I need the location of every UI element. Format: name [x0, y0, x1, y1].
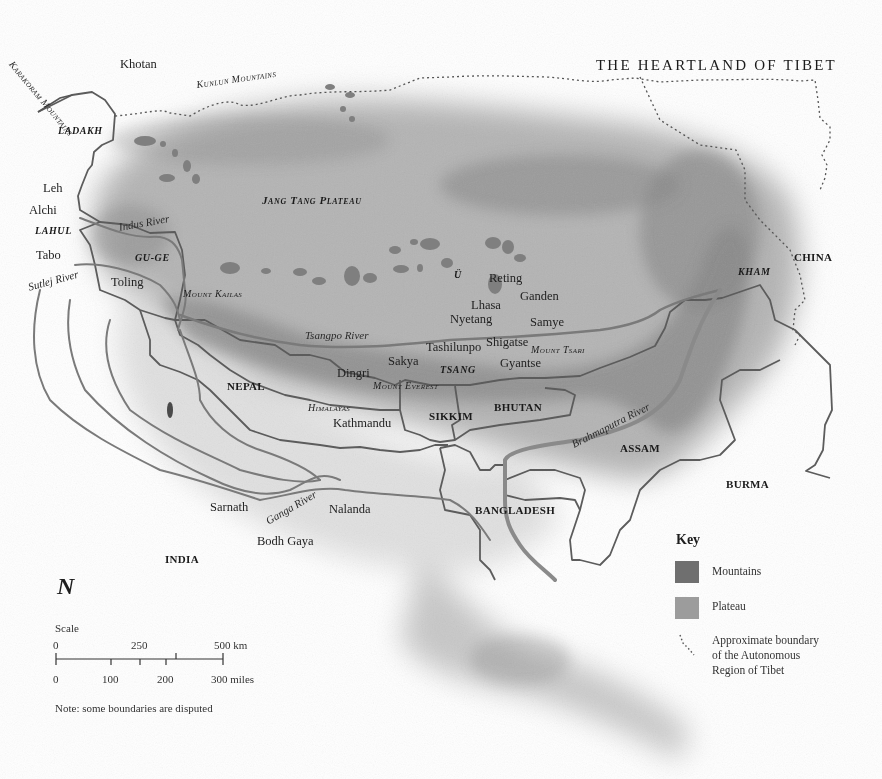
- label-india: INDIA: [165, 554, 199, 565]
- label-tsang: TSANG: [440, 365, 476, 375]
- label-leh: Leh: [43, 182, 62, 195]
- scale-km-0: 0: [53, 639, 59, 651]
- key-title: Key: [676, 532, 700, 548]
- plateau-swatch-icon: [675, 597, 699, 619]
- label-shigatse: Shigatse: [486, 336, 528, 349]
- map-title: THE HEARTLAND OF TIBET: [596, 57, 837, 74]
- label-nalanda: Nalanda: [329, 503, 371, 516]
- label-jang-tang-plateau: Jang Tang Plateau: [262, 195, 362, 206]
- scale-km-250: 250: [131, 639, 148, 651]
- label-sakya: Sakya: [388, 355, 419, 368]
- label-nyetang: Nyetang: [450, 313, 492, 326]
- label-sarnath: Sarnath: [210, 501, 248, 514]
- label-tabo: Tabo: [36, 249, 61, 262]
- label-mount-tsari: Mount Tsari: [531, 345, 585, 355]
- scale-km-500: 500 km: [214, 639, 247, 651]
- label-khotan: Khotan: [120, 58, 157, 71]
- key-label-boundary-line1: Approximate boundary: [712, 633, 819, 648]
- key-label-boundary-line2: of the Autonomous: [712, 648, 800, 663]
- key-label-boundary-line3: Region of Tibet: [712, 663, 784, 678]
- label-samye: Samye: [530, 316, 564, 329]
- label-lhasa: Lhasa: [471, 299, 501, 312]
- label-reting: Reting: [489, 272, 522, 285]
- disputed-boundaries-note: Note: some boundaries are disputed: [55, 702, 213, 714]
- label-toling: Toling: [111, 276, 143, 289]
- label-ladakh: LADAKH: [58, 126, 103, 136]
- key-item-plateau: Plateau: [712, 599, 746, 614]
- key-item-mountains: Mountains: [712, 564, 761, 579]
- label-tashilunpo: Tashilunpo: [426, 341, 481, 354]
- label-ganden: Ganden: [520, 290, 559, 303]
- label-mount-kailas: Mount Kailas: [183, 289, 242, 299]
- north-indicator: N: [57, 573, 74, 600]
- label-kathmandu: Kathmandu: [333, 417, 391, 430]
- label-himalayas: Himalayas: [308, 403, 350, 413]
- label-china: CHINA: [794, 252, 832, 263]
- label-burma: BURMA: [726, 479, 769, 490]
- scale-mi-300: 300 miles: [211, 673, 254, 685]
- label-mount-everest: Mount Everest: [373, 381, 438, 391]
- label-tsangpo-river: Tsangpo River: [305, 330, 368, 341]
- label-bhutan: BHUTAN: [494, 402, 542, 413]
- scale-mi-200: 200: [157, 673, 174, 685]
- key-label-plateau: Plateau: [712, 599, 746, 614]
- scale-mi-100: 100: [102, 673, 119, 685]
- key-label-mountains: Mountains: [712, 564, 761, 579]
- key-item-tar-boundary: Approximate boundary of the Autonomous R…: [712, 633, 819, 678]
- label-gyantse: Gyantse: [500, 357, 541, 370]
- scale-mi-0: 0: [53, 673, 59, 685]
- label-kham: KHAM: [738, 267, 770, 277]
- label-bangladesh: BANGLADESH: [475, 505, 555, 516]
- label-sikkim: SIKKIM: [429, 411, 473, 422]
- label-gu-ge: GU-GE: [135, 253, 170, 263]
- label-alchi: Alchi: [29, 204, 57, 217]
- label-nepal: NEPAL: [227, 381, 265, 392]
- label-u: Ü: [454, 270, 462, 280]
- label-lahul: LAHUL: [35, 226, 72, 236]
- scale-title: Scale: [55, 622, 79, 634]
- mountains-swatch-icon: [675, 561, 699, 583]
- label-bodh-gaya: Bodh Gaya: [257, 535, 314, 548]
- label-assam: ASSAM: [620, 443, 660, 454]
- label-dingri: Dingri: [337, 367, 370, 380]
